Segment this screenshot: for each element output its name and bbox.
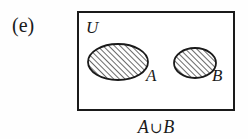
universe-label: U — [86, 18, 100, 37]
caption-operand-right: B — [163, 117, 174, 137]
set-b-label: B — [212, 66, 223, 85]
set-a-ellipse — [88, 44, 148, 80]
venn-diagram-figure: (e) U A B A∪B — [0, 0, 248, 139]
set-b-ellipse — [174, 48, 216, 78]
union-operator-icon: ∪ — [149, 120, 164, 136]
set-operation-caption: A∪B — [78, 116, 234, 139]
caption-operand-left: A — [138, 117, 149, 137]
set-a-label: A — [145, 66, 157, 85]
